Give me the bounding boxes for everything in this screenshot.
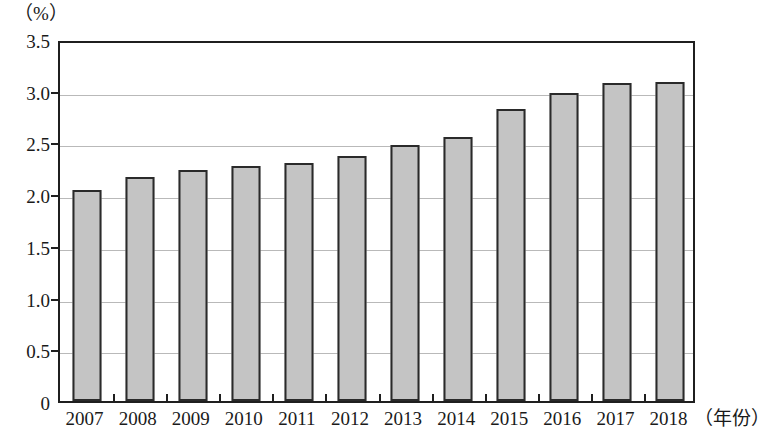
bar bbox=[550, 93, 579, 401]
bar bbox=[444, 137, 473, 401]
x-axis-tick-mark bbox=[591, 394, 593, 402]
bar-slot bbox=[60, 43, 113, 401]
bar-slot bbox=[538, 43, 591, 401]
y-axis-tick-label: 3.5 bbox=[6, 32, 50, 51]
bar-slot bbox=[166, 43, 219, 401]
x-axis-tick-mark bbox=[325, 394, 327, 402]
bar-slot bbox=[272, 43, 325, 401]
y-axis-tick-label: 3.0 bbox=[6, 83, 50, 102]
bar-slot bbox=[219, 43, 272, 401]
bar bbox=[178, 170, 207, 401]
y-axis-tick-label: 2.0 bbox=[6, 187, 50, 206]
bar bbox=[603, 83, 632, 401]
y-axis-unit-label: （%） bbox=[14, 4, 68, 24]
bar-series bbox=[60, 43, 693, 401]
bar-slot bbox=[644, 43, 697, 401]
bar bbox=[72, 190, 101, 401]
bar bbox=[391, 145, 420, 402]
bar bbox=[337, 156, 366, 401]
bar-slot bbox=[379, 43, 432, 401]
bar bbox=[497, 109, 526, 401]
x-axis-tick-mark bbox=[538, 394, 540, 402]
bar bbox=[656, 82, 685, 401]
y-axis-tick-label: 1.0 bbox=[6, 290, 50, 309]
bar bbox=[284, 163, 313, 401]
x-axis-tick-label: 2018 bbox=[633, 408, 703, 430]
bar-slot bbox=[432, 43, 485, 401]
x-axis-tick-mark bbox=[644, 394, 646, 402]
y-axis-tick-label: 0 bbox=[6, 394, 50, 413]
x-axis-tick-mark bbox=[219, 394, 221, 402]
bar bbox=[125, 177, 154, 401]
y-axis-tick-label: 0.5 bbox=[6, 342, 50, 361]
bar-slot bbox=[485, 43, 538, 401]
bar bbox=[231, 166, 260, 401]
x-axis-unit-label: （年份） bbox=[694, 408, 762, 430]
x-axis-tick-mark bbox=[272, 394, 274, 402]
y-axis-tick-label: 2.5 bbox=[6, 135, 50, 154]
x-axis-tick-mark bbox=[432, 394, 434, 402]
bar-slot bbox=[591, 43, 644, 401]
x-axis-tick-mark bbox=[113, 394, 115, 402]
x-axis-tick-mark bbox=[166, 394, 168, 402]
x-axis-tick-mark bbox=[379, 394, 381, 402]
plot-area bbox=[58, 41, 695, 403]
x-axis-tick-mark bbox=[485, 394, 487, 402]
y-axis-tick-label: 1.5 bbox=[6, 238, 50, 257]
bar-slot bbox=[113, 43, 166, 401]
bar-slot bbox=[325, 43, 378, 401]
